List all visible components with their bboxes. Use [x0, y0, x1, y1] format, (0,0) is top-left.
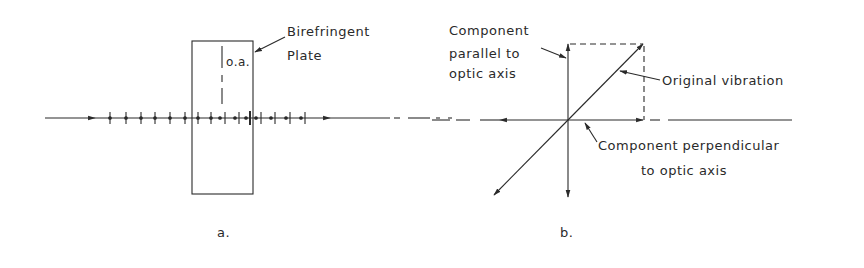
parallel-label-line2: parallel to — [449, 46, 520, 61]
caption-b: b. — [560, 225, 573, 240]
optic-axis-label: o.a. — [226, 55, 250, 70]
plate-pointer — [255, 37, 285, 52]
original-vibration-label: Original vibration — [662, 73, 784, 88]
perp-label-line2: to optic axis — [641, 163, 727, 178]
parallel-label-line3: optic axis — [449, 66, 516, 81]
plate-label-line2: Plate — [287, 48, 322, 63]
plate-label-line1: Birefringent — [287, 24, 370, 39]
parallel-label-line1: Component — [449, 23, 529, 38]
perp-label-line1: Component perpendicular — [598, 138, 779, 153]
caption-a: a. — [217, 225, 230, 240]
diagram-canvas — [0, 0, 864, 268]
